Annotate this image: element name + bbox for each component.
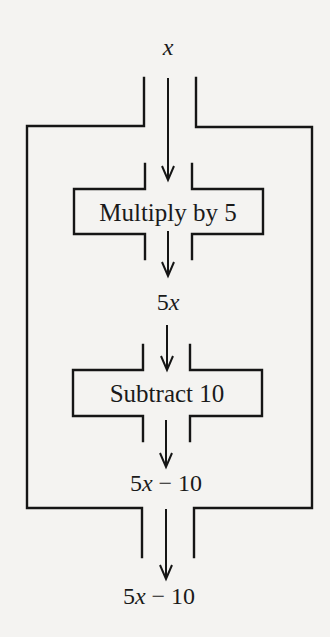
arrow-down-icon [161, 325, 173, 370]
arrow-down-icon [160, 420, 172, 467]
intermediate-value-5x: 5x [157, 289, 180, 315]
machine-output-value: 5x − 10 [130, 470, 202, 496]
step-label-multiply: Multiply by 5 [99, 199, 237, 226]
step-label-subtract: Subtract 10 [110, 380, 225, 407]
final-output-value: 5x − 10 [123, 583, 195, 609]
input-label: x [162, 34, 174, 60]
function-machine-diagram: x Multiply by 5 5x Subtract 10 5x − 10 5… [0, 0, 330, 637]
arrow-down-icon [162, 231, 174, 276]
arrow-down-icon [160, 509, 172, 579]
arrow-down-icon [162, 78, 174, 180]
